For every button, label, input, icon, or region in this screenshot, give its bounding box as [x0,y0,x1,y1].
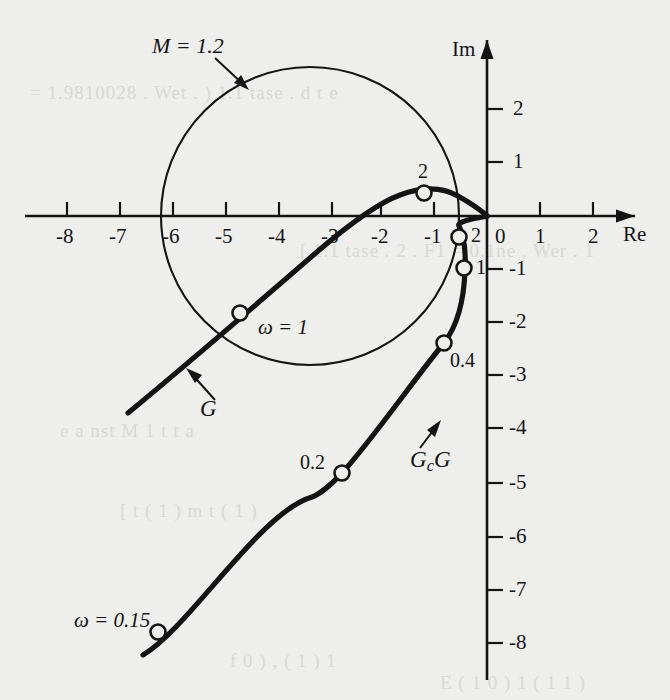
marker-GcG-omega-1 [457,261,472,276]
imag-tick-label-1: 1 [513,149,524,174]
real-tick-label--6: -6 [162,224,180,249]
imag-tick-label--8: -8 [509,630,527,655]
gcg-marker-label-2: 2 [471,224,481,247]
imag-axis-ticks [487,109,503,643]
imag-axis-title: Im [452,37,475,62]
gcg-marker-label-02: 0.2 [300,451,325,474]
m-circle-leader-arrow-icon [215,58,249,90]
omega-015-label: ω = 0.15 [74,608,150,633]
axis-lines [25,40,635,680]
real-tick-label--3: -3 [321,224,339,249]
marker-GcG-omega-015 [151,625,166,640]
gcg-label-main: G [410,447,427,472]
real-tick-label-1: 1 [535,224,546,249]
imag-tick-label--4: -4 [509,415,527,440]
real-tick-label--1: -1 [424,224,442,249]
real-tick-label--5: -5 [215,224,233,249]
real-axis-title: Re [623,222,646,247]
gcg-marker-label-1: 1 [476,256,486,279]
m-circle-label: M = 1.2 [152,33,224,59]
real-tick-label-0: 0 [495,224,506,249]
real-axis-arrow-icon [616,210,635,223]
g-curve-label: G [200,396,217,422]
marker-G-omega-2 [417,186,432,201]
omega-1-label: ω = 1 [258,315,308,340]
curve-GcG [143,216,487,655]
imag-tick-label--7: -7 [509,577,527,602]
nyquist-plot-figure [0,0,670,700]
real-axis-ticks [67,202,593,216]
imag-tick-label--6: -6 [509,524,527,549]
real-tick-label--4: -4 [268,224,286,249]
real-tick-label--7: -7 [109,224,127,249]
marker-GcG-omega-02 [335,466,350,481]
g-marker-label-2: 2 [418,160,428,183]
gcg-curve-label: GcG [410,447,451,476]
gcg-curve-leader-arrow-icon [420,420,441,448]
imag-tick-label--1: -1 [509,256,527,281]
imag-tick-label-2: 2 [513,96,524,121]
gcg-label-tail: G [434,447,451,472]
real-tick-label--8: -8 [56,224,74,249]
imag-axis-arrow-icon [481,40,494,59]
frequency-markers [151,186,472,640]
imag-tick-label--5: -5 [509,470,527,495]
gcg-marker-label-04: 0.4 [450,349,475,372]
gcg-label-subscript: c [427,456,434,475]
real-tick-label--2: -2 [371,224,389,249]
marker-GcG-omega-2 [452,230,467,245]
marker-G-omega-1 [233,306,248,321]
real-tick-label-2: 2 [588,224,599,249]
imag-tick-label--2: -2 [509,309,527,334]
imag-tick-label--3: -3 [509,362,527,387]
